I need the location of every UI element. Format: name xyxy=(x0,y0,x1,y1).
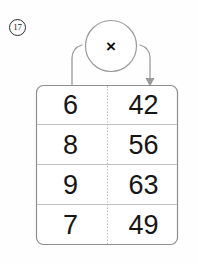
input-arrow-line xyxy=(72,45,82,86)
worksheet-page: 17 × 6 42 8 56 9 63 xyxy=(0,0,198,264)
table-row: 6 42 xyxy=(36,85,178,125)
input-value: 6 xyxy=(36,85,107,125)
output-value: 49 xyxy=(107,205,178,245)
table-row: 9 63 xyxy=(36,165,178,205)
input-value: 8 xyxy=(36,125,107,165)
value-table: 6 42 8 56 9 63 7 49 xyxy=(36,85,178,245)
output-value: 42 xyxy=(107,85,178,125)
input-value: 9 xyxy=(36,165,107,205)
table-row: 7 49 xyxy=(36,205,178,245)
input-value: 7 xyxy=(36,205,107,245)
output-arrow-line xyxy=(140,45,150,78)
operator-circle xyxy=(86,21,137,72)
table-row: 8 56 xyxy=(36,125,178,165)
output-value: 56 xyxy=(107,125,178,165)
output-value: 63 xyxy=(107,165,178,205)
